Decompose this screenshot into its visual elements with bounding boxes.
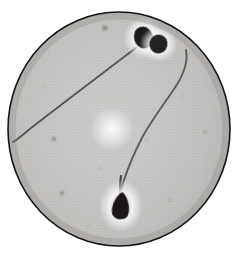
debris-speck-8 [44, 85, 47, 88]
bright-spot-highlight [90, 107, 134, 151]
debris-speck-9 [169, 199, 172, 202]
debris-speck-7 [182, 95, 184, 97]
debris-speck-3 [203, 130, 206, 133]
debris-speck-4 [60, 191, 65, 196]
photomicrograph-figure [0, 0, 236, 273]
debris-speck-5 [146, 139, 149, 142]
debris-speck-2 [52, 137, 56, 141]
debris-speck-6 [99, 167, 101, 169]
debris-speck-1 [102, 25, 107, 30]
micrograph-canvas [0, 0, 236, 273]
debris-speck-10 [87, 225, 90, 228]
